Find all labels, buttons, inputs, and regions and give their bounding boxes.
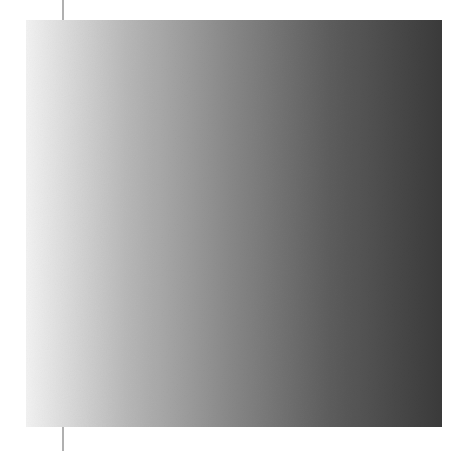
paper-grain-noise-overlay <box>26 20 442 427</box>
grayscale-gradient-swatch <box>26 20 442 427</box>
image-canvas <box>0 0 468 451</box>
